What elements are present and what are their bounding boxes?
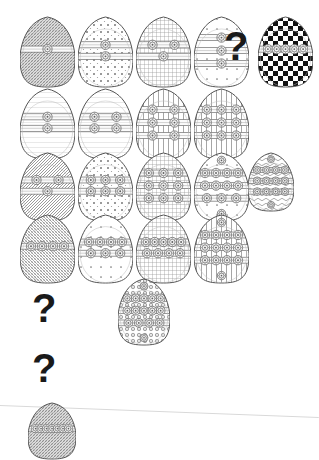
question-mark-row1: ? (224, 26, 248, 66)
egg-grid-canvas: ??? (0, 0, 319, 460)
question-mark-row5: ? (32, 288, 56, 328)
egg-r3c1 (20, 152, 75, 222)
egg-r2c2 (78, 88, 133, 160)
egg-r1c3 (136, 16, 191, 88)
egg-r1-answer-checker (258, 16, 313, 88)
egg-r3c4 (194, 152, 249, 222)
egg-r4c2 (78, 214, 133, 284)
egg-r2c4 (194, 88, 249, 160)
question-mark-row6: ? (32, 348, 56, 388)
egg-r3c3 (136, 152, 191, 222)
egg-r1c2 (78, 16, 133, 88)
egg-r2c1 (20, 88, 75, 160)
egg-r4c4 (194, 214, 249, 284)
egg-r1c1 (20, 16, 75, 88)
egg-r3c2 (78, 152, 133, 222)
egg-r7-final (28, 402, 76, 460)
egg-r4c3 (136, 214, 191, 284)
egg-r2c3 (136, 88, 191, 160)
egg-r5-ornate (118, 278, 170, 346)
egg-r4c1 (20, 214, 75, 284)
egg-r3c5 (248, 152, 294, 212)
